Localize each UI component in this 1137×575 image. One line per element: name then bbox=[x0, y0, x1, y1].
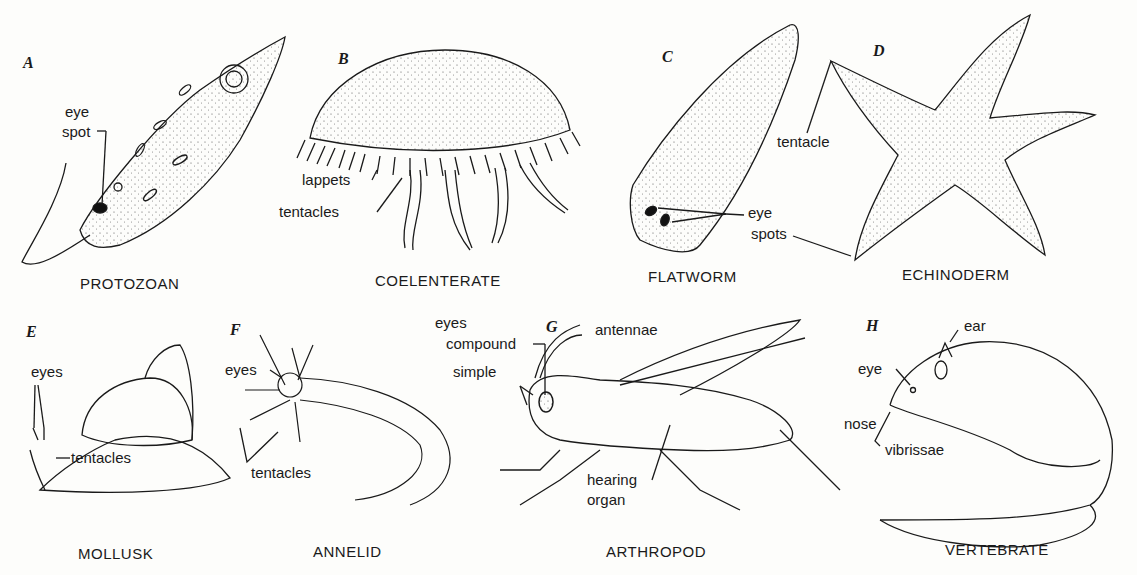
label-eye: eye bbox=[65, 104, 89, 119]
label-tentacles: tentacles bbox=[71, 450, 131, 465]
panel-letter-c: C bbox=[662, 48, 673, 66]
label-eyes: eyes bbox=[435, 315, 467, 330]
caption-flatworm: FLATWORM bbox=[648, 268, 737, 285]
label-tentacle: tentacle bbox=[777, 134, 830, 149]
label-nose: nose bbox=[844, 416, 877, 431]
label-eye: eye bbox=[858, 361, 882, 376]
label-ear: ear bbox=[964, 318, 986, 333]
panel-letter-g: G bbox=[546, 318, 558, 336]
flatworm-drawing bbox=[630, 25, 798, 252]
label-eyes: eyes bbox=[225, 362, 257, 377]
caption-annelid: ANNELID bbox=[313, 543, 382, 560]
caption-coelenterate: COELENTERATE bbox=[375, 272, 501, 289]
label-tentacles: tentacles bbox=[279, 204, 339, 219]
label-compound: compound bbox=[446, 336, 516, 351]
label-lappets: lappets bbox=[302, 172, 350, 187]
panel-letter-e: E bbox=[26, 323, 37, 341]
panel-letter-h: H bbox=[866, 317, 878, 335]
caption-protozoan: PROTOZOAN bbox=[80, 275, 179, 292]
caption-vertebrate: VERTEBRATE bbox=[945, 541, 1049, 558]
label-spots: spots bbox=[751, 226, 787, 241]
caption-mollusk: MOLLUSK bbox=[78, 545, 153, 562]
coelenterate-drawing bbox=[297, 50, 580, 250]
label-organ: organ bbox=[587, 492, 625, 507]
label-tentacles: tentacles bbox=[251, 465, 311, 480]
label-spot: spot bbox=[62, 124, 90, 139]
echinoderm-drawing bbox=[831, 15, 1095, 260]
caption-arthropod: ARTHROPOD bbox=[606, 543, 706, 560]
label-eye: eye bbox=[748, 205, 772, 220]
panel-letter-d: D bbox=[873, 42, 885, 60]
label-simple: simple bbox=[453, 364, 496, 379]
panel-letter-b: B bbox=[338, 50, 349, 68]
label-vibrissae: vibrissae bbox=[885, 442, 944, 457]
protozoan-drawing bbox=[22, 37, 285, 264]
label-eyes: eyes bbox=[31, 364, 63, 379]
caption-echinoderm: ECHINODERM bbox=[902, 266, 1010, 283]
panel-letter-f: F bbox=[230, 321, 241, 339]
label-hearing: hearing bbox=[587, 472, 637, 487]
arthropod-drawing bbox=[500, 320, 840, 510]
panel-letter-a: A bbox=[23, 54, 34, 72]
label-antennae: antennae bbox=[595, 322, 658, 337]
